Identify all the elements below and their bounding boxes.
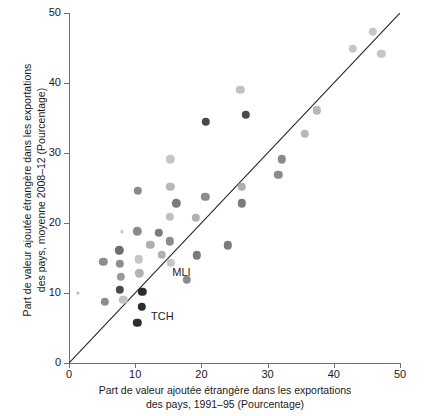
x-axis-title-line1: Part de valeur ajoutée étrangère dans le… [99,384,352,396]
data-point [172,199,180,207]
data-point [165,212,173,220]
x-axis-title-line2: des pays, 1991–95 (Pourcentage) [146,398,304,410]
data-point [238,182,246,190]
data-point [166,155,174,163]
y-axis-title: Part de valeur ajoutée étrangère dans le… [20,20,48,360]
data-point [377,49,385,57]
data-point [312,106,320,114]
data-point [192,214,200,222]
point-annotation-mli: MLI [172,266,190,278]
data-point [76,291,79,294]
data-point [116,259,124,267]
data-point [224,241,232,249]
data-point [133,227,141,235]
y-axis-title-line2: des pays, moyenne 2008–12 (Pourcentage) [35,88,47,292]
data-point [135,269,143,277]
data-point [146,240,154,248]
data-point [119,296,127,304]
data-point [242,110,250,118]
data-point [349,44,357,52]
data-point [115,246,123,254]
data-point [277,155,285,163]
data-point [116,285,124,293]
data-point [116,273,124,281]
y-axis-title-line1: Part de valeur ajoutée étrangère dans le… [21,64,33,317]
data-points-layer: MLITCH [0,0,427,416]
data-point [165,237,173,245]
data-point [120,230,123,233]
data-point [157,250,165,258]
data-point [201,193,209,201]
data-point [133,319,141,327]
data-point [134,255,142,263]
scatter-chart: 0102030405001020304050 MLITCH Part de va… [0,0,427,416]
data-point [369,28,377,36]
point-annotation-tch: TCH [151,310,174,322]
data-point [193,251,201,259]
data-point [138,303,146,311]
data-point [238,199,246,207]
data-point [166,182,174,190]
data-point [138,287,146,295]
data-point [202,117,210,125]
data-point [101,298,109,306]
data-point [99,257,107,265]
data-point [300,130,308,138]
data-point [155,229,163,237]
data-point [274,170,282,178]
x-axis-title: Part de valeur ajoutée étrangère dans le… [40,383,410,411]
data-point [236,86,244,94]
data-point [134,187,142,195]
